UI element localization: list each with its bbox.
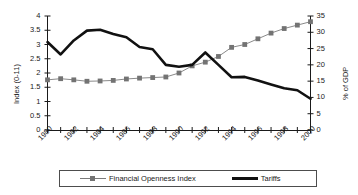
legend-label-tariffs: Tariffs <box>261 174 281 183</box>
series-marker-point <box>45 77 50 82</box>
chart-plot-area <box>0 0 358 195</box>
series-marker-point <box>269 31 274 36</box>
series-marker-point <box>124 77 129 82</box>
series-marker-point <box>137 76 142 81</box>
series-marker-point <box>203 60 208 65</box>
right-axis-tick-label: 10 <box>317 92 339 101</box>
series-marker-point <box>256 36 261 41</box>
series-marker-point <box>282 26 287 31</box>
right-axis-tick-label: 30 <box>317 27 339 36</box>
left-axis-tick-label: 4 <box>19 11 41 20</box>
right-axis-tick-label: 0 <box>317 125 339 134</box>
left-axis-tick-label: 0.5 <box>19 111 41 120</box>
left-axis-tick-label: 3 <box>19 40 41 49</box>
legend-label-financial-openness-index: Financial Openness Index <box>109 174 196 183</box>
legend-item-tariffs: Tariffs <box>232 174 281 183</box>
legend-marker-square-icon <box>80 174 106 183</box>
right-axis-tick-label: 5 <box>317 109 339 118</box>
chart-figure: Index (0-11) % of GDP 00.511.522.533.54 … <box>0 0 358 195</box>
series-marker-point <box>111 78 116 83</box>
series-marker-point <box>85 79 90 84</box>
right-axis-title: % of GDP <box>341 67 350 100</box>
series-marker-point <box>177 71 182 76</box>
left-axis-tick-label: 2 <box>19 68 41 77</box>
chart-legend: Financial Openness Index Tariffs <box>59 170 317 187</box>
series-marker-point <box>216 54 221 59</box>
series-marker-point <box>308 19 313 24</box>
series-marker-point <box>295 23 300 28</box>
left-axis-tick-label: 2.5 <box>19 54 41 63</box>
right-axis-tick-label: 25 <box>317 44 339 53</box>
series-marker-point <box>150 75 155 80</box>
left-axis-tick-label: 3.5 <box>19 25 41 34</box>
series-markers-financial-openness-index <box>45 19 313 83</box>
left-axis-tick-label: 0 <box>19 125 41 134</box>
right-axis-tick-label: 20 <box>317 60 339 69</box>
right-axis-tick-label: 15 <box>317 76 339 85</box>
series-marker-point <box>98 79 103 84</box>
left-axis-tick-label: 1.5 <box>19 82 41 91</box>
legend-item-financial-openness-index: Financial Openness Index <box>80 174 196 183</box>
legend-line-icon <box>232 177 258 180</box>
series-marker-point <box>163 75 168 80</box>
series-marker-point <box>242 42 247 47</box>
series-marker-point <box>229 45 234 50</box>
left-axis-tick-label: 1 <box>19 97 41 106</box>
series-marker-point <box>71 77 76 82</box>
right-axis-tick-label: 35 <box>317 11 339 20</box>
series-line-tariffs <box>48 30 311 99</box>
series-marker-point <box>58 76 63 81</box>
